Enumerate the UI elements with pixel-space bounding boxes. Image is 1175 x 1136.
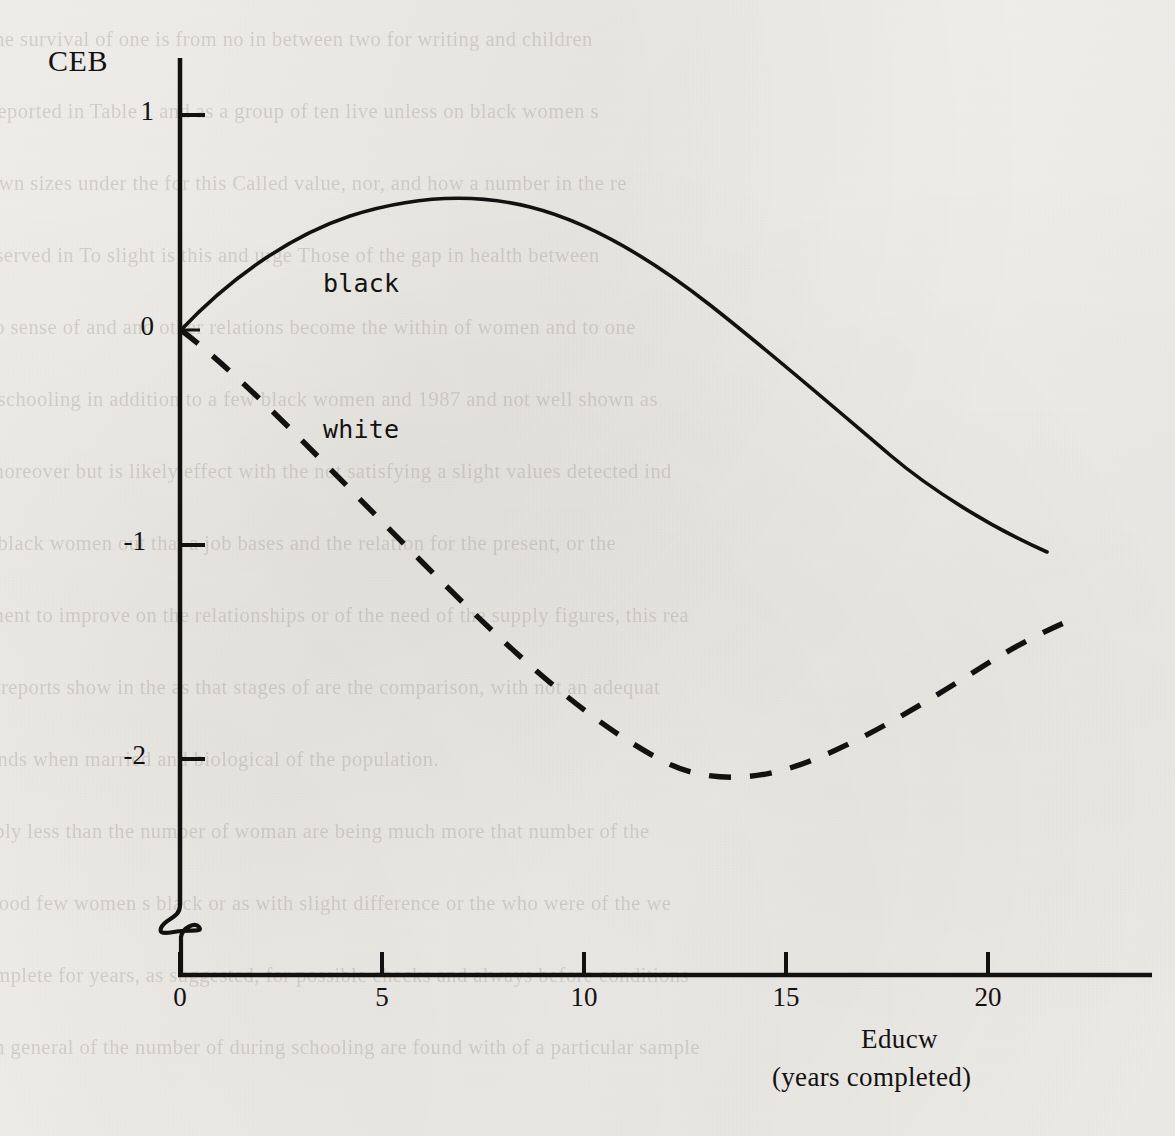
y-tick-label-neg1: -1 xyxy=(102,526,146,557)
y-axis-title: CEB xyxy=(48,44,108,78)
x-axis-subtitle: (years completed) xyxy=(772,1062,971,1093)
series-label-white: white xyxy=(323,415,399,444)
series-curve-black xyxy=(181,198,1047,552)
x-tick-label-5: 5 xyxy=(360,982,404,1013)
x-tick-label-0: 0 xyxy=(158,982,202,1013)
x-axis-title: Educw xyxy=(861,1024,938,1055)
x-tick-label-10: 10 xyxy=(562,982,606,1013)
x-tick-label-15: 15 xyxy=(764,982,808,1013)
y-tick-label-1: 1 xyxy=(110,96,154,127)
figure-ceb-by-education: CEB 1 0 -1 -2 0 5 10 15 20 Educw (years … xyxy=(0,0,1175,1136)
series-label-black: black xyxy=(323,269,399,298)
y-tick-label-0: 0 xyxy=(110,311,154,342)
y-tick-label-neg2: -2 xyxy=(102,740,146,771)
chart-svg xyxy=(0,0,1175,1136)
series-curve-white xyxy=(181,330,1078,777)
x-tick-label-20: 20 xyxy=(966,982,1010,1013)
